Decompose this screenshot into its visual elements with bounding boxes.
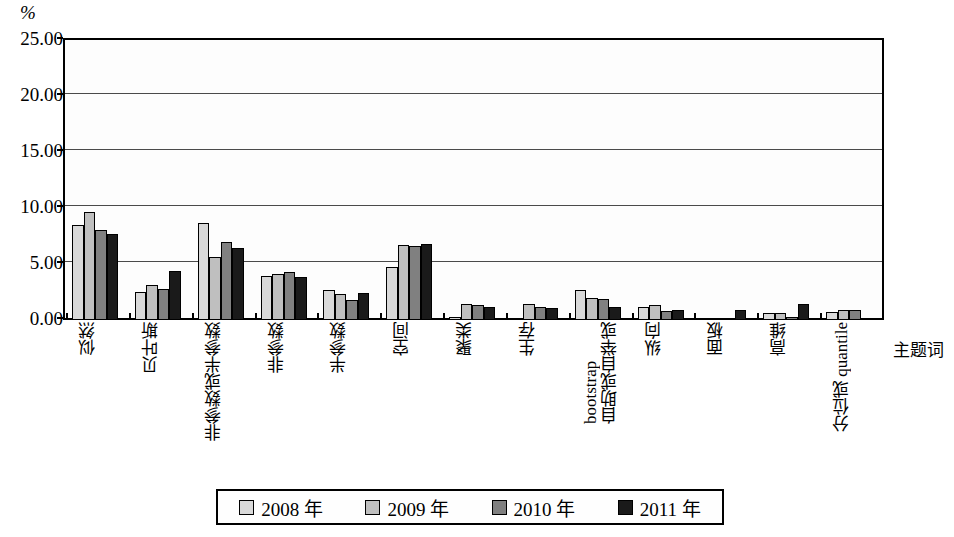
bar (295, 277, 307, 320)
bar (575, 290, 587, 320)
bar (786, 317, 798, 320)
x-tick-label-line: bootstrap (581, 322, 600, 424)
legend-item[interactable]: 2011 年 (618, 494, 701, 521)
bar (672, 310, 684, 320)
bar (546, 308, 558, 320)
bar (735, 310, 747, 320)
bar (358, 293, 370, 320)
bar (169, 271, 181, 320)
x-tick-label-line: 似然 (78, 322, 97, 356)
x-tick-mark (757, 313, 759, 320)
y-tick-label: 15.00 (5, 141, 63, 160)
bar (421, 244, 433, 320)
x-tick-label-line: 自助或自举或 (600, 322, 619, 424)
x-axis-title: 主题词 (893, 336, 944, 361)
x-tick-label: 面板 (706, 322, 725, 356)
bar (598, 299, 610, 320)
x-tick-mark (820, 313, 822, 320)
bar (775, 313, 787, 320)
legend-item[interactable]: 2008 年 (239, 494, 323, 521)
bar (472, 305, 484, 320)
bar (712, 318, 724, 320)
x-tick-mark (632, 313, 634, 320)
bar-group (568, 40, 631, 320)
x-tick-label-line: 非参数或半参数 (204, 322, 223, 441)
legend-label: 2011 年 (640, 494, 701, 521)
x-tick-mark (66, 313, 68, 320)
bar (323, 290, 335, 320)
x-tick-label-line: 分位或 quantile (832, 322, 851, 432)
x-tick-label: 聚类 (455, 322, 474, 356)
legend-item[interactable]: 2009 年 (365, 494, 449, 521)
bar (723, 318, 735, 320)
bar (346, 300, 358, 320)
y-tick-mark (57, 317, 63, 319)
bar-group (316, 40, 379, 320)
bar (158, 289, 170, 320)
x-tick-mark (443, 313, 445, 320)
x-tick-label-line: 纵向 (644, 322, 663, 356)
y-tick-label: 20.00 (5, 85, 63, 104)
bar (84, 212, 96, 320)
bar (638, 307, 650, 320)
legend-label: 2009 年 (387, 494, 449, 521)
legend-label: 2010 年 (514, 494, 576, 521)
bar (461, 304, 473, 320)
y-tick-label: 25.00 (5, 29, 63, 48)
legend-label: 2008 年 (261, 494, 323, 521)
bar-group (379, 40, 442, 320)
x-tick-label-line: 贝叶斯 (141, 322, 160, 373)
bar-group (756, 40, 819, 320)
x-tick-label-line: 高维 (769, 322, 788, 356)
bar (232, 248, 244, 320)
x-tick-label-line: 聚类 (455, 322, 474, 356)
bar (135, 292, 147, 320)
y-tick-mark (57, 149, 63, 151)
y-tick-mark (57, 261, 63, 263)
x-tick-label: 似然 (78, 322, 97, 356)
x-tick-label: 非参数 (267, 322, 286, 373)
bar (72, 225, 84, 320)
bar (284, 272, 296, 320)
y-tick-label: 10.00 (5, 197, 63, 216)
x-tick-label: 高维 (769, 322, 788, 356)
x-tick-label: 纵向 (644, 322, 663, 356)
x-tick-mark (506, 313, 508, 320)
bar (861, 318, 873, 320)
bar (449, 317, 461, 320)
x-tick-label-line: 空间 (392, 322, 411, 356)
x-tick-label-line: 半参数 (329, 322, 348, 373)
x-tick-label: 半参数 (329, 322, 348, 373)
bar (272, 274, 284, 320)
bar-group (254, 40, 317, 320)
bar (826, 312, 838, 320)
bar (512, 318, 524, 320)
y-tick-mark (57, 93, 63, 95)
bar (484, 307, 496, 320)
bar-group (65, 40, 128, 320)
x-axis-labels: 似然贝叶斯非参数或半参数非参数半参数空间聚类生存自助或自举或bootstrap纵… (65, 322, 882, 492)
bar (398, 245, 410, 320)
bar-group (442, 40, 505, 320)
legend-swatch (492, 500, 507, 515)
bar (523, 304, 535, 320)
y-tick-label: 5.00 (5, 253, 63, 272)
x-tick-label-line: 生存 (518, 322, 537, 356)
bar (146, 285, 158, 320)
x-tick-mark (694, 313, 696, 320)
bar (798, 304, 810, 320)
legend-item[interactable]: 2010 年 (492, 494, 576, 521)
bar (261, 276, 273, 320)
bar (661, 311, 673, 320)
x-tick-label: 空间 (392, 322, 411, 356)
bar (763, 313, 775, 320)
x-tick-label: 非参数或半参数 (204, 322, 223, 441)
x-tick-label: 分位或 quantile (832, 322, 851, 432)
x-tick-label: 自助或自举或bootstrap (581, 322, 619, 424)
x-tick-label: 生存 (518, 322, 537, 356)
bar (649, 305, 661, 320)
bar-group (693, 40, 756, 320)
bar-group (128, 40, 191, 320)
x-tick-mark (255, 313, 257, 320)
bar (95, 230, 107, 320)
